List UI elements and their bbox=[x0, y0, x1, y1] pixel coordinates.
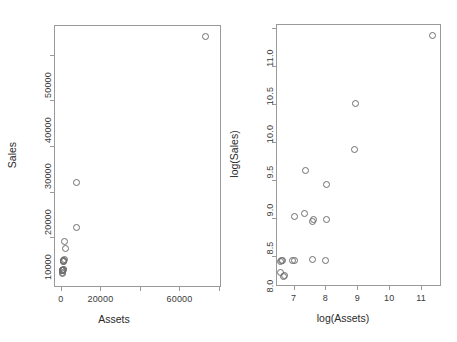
x-tick bbox=[325, 286, 326, 290]
data-point bbox=[429, 32, 436, 39]
data-point bbox=[202, 33, 209, 40]
data-point bbox=[277, 258, 284, 265]
data-point bbox=[323, 216, 330, 223]
data-point bbox=[73, 224, 80, 231]
x-tick bbox=[61, 287, 62, 291]
x-tick bbox=[294, 286, 295, 290]
x-axis-title-right: log(Assets) bbox=[229, 312, 457, 324]
scatter-plot-figure: 02000060000 1000020000300004000050000 As… bbox=[0, 0, 457, 342]
x-tick bbox=[219, 287, 220, 291]
plot-frame-left bbox=[54, 25, 221, 287]
data-point bbox=[352, 100, 359, 107]
plot-frame-right bbox=[276, 24, 441, 286]
x-tick-label: 11 bbox=[416, 293, 426, 303]
x-tick bbox=[389, 286, 390, 290]
y-axis-title-left: Sales bbox=[6, 24, 18, 286]
x-tick bbox=[357, 286, 358, 290]
x-tick-label: 7 bbox=[291, 293, 296, 303]
y-tick-label: 11.0 bbox=[265, 28, 275, 88]
x-tick-label: 20000 bbox=[87, 294, 113, 304]
y-tick-label: 50000 bbox=[43, 55, 53, 115]
x-tick-label: 60000 bbox=[166, 294, 192, 304]
x-tick-label: 9 bbox=[355, 293, 360, 303]
data-point bbox=[59, 270, 66, 277]
data-point bbox=[291, 213, 298, 220]
x-tick-label: 10 bbox=[384, 293, 394, 303]
data-point bbox=[62, 245, 69, 252]
x-tick bbox=[100, 287, 101, 291]
data-point bbox=[61, 238, 68, 245]
panel-logsales-vs-logassets: 7891011 8.08.59.09.510.010.511.0 log(Ass… bbox=[229, 0, 457, 342]
x-tick bbox=[179, 287, 180, 291]
data-point bbox=[302, 167, 309, 174]
x-tick-label: 0 bbox=[58, 294, 63, 304]
x-tick bbox=[421, 286, 422, 290]
y-axis-title-right: log(Sales) bbox=[228, 23, 240, 285]
x-axis-title-left: Assets bbox=[0, 313, 228, 325]
x-tick bbox=[140, 287, 141, 291]
data-point bbox=[281, 272, 288, 279]
panel-sales-vs-assets: 02000060000 1000020000300004000050000 As… bbox=[0, 0, 228, 342]
x-tick-label: 8 bbox=[323, 293, 328, 303]
data-point bbox=[60, 258, 67, 265]
